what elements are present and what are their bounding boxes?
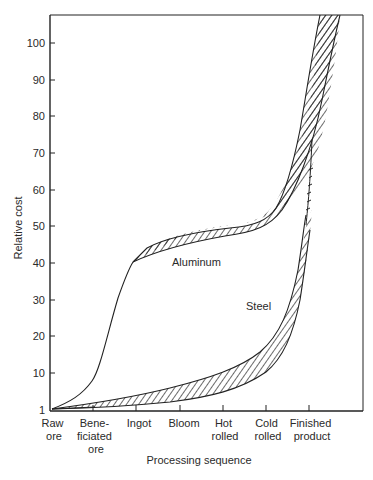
x-tick-bloom: Bloom: [168, 417, 199, 429]
aluminum-upper-edge: [133, 15, 320, 262]
y-tick-50: 50: [33, 220, 45, 232]
aluminum-lower-line: [52, 262, 133, 409]
x-tick-hot-rolled: Hot rolled: [212, 417, 239, 442]
x-tick-cold-rolled: Cold rolled: [255, 417, 282, 442]
relative-cost-chart: 100 90 80 70 60 50 40 30 20 10 1 Relativ…: [0, 0, 373, 480]
y-axis-tick-labels: 100 90 80 70 60 50 40 30 20 10 1: [27, 37, 45, 416]
x-tick-beneficiated-ore: Bene- ficiated ore: [77, 417, 115, 455]
x-tick-ingot: Ingot: [127, 417, 151, 429]
x-tick-finished-product: Finished product: [290, 417, 335, 442]
y-tick-1: 1: [39, 404, 45, 416]
y-tick-60: 60: [33, 184, 45, 196]
y-tick-70: 70: [33, 147, 45, 159]
steel-label: Steel: [246, 300, 271, 312]
x-axis-tick-labels: Raw ore Bene- ficiated ore Ingot Bloom H…: [41, 417, 334, 455]
y-tick-90: 90: [33, 74, 45, 86]
y-tick-30: 30: [33, 294, 45, 306]
y-axis-ticks: [50, 43, 55, 373]
y-tick-100: 100: [27, 37, 45, 49]
y-tick-10: 10: [33, 367, 45, 379]
y-tick-80: 80: [33, 110, 45, 122]
x-axis-title: Processing sequence: [146, 454, 251, 466]
y-axis-title: Relative cost: [12, 197, 24, 260]
x-tick-raw-ore: Raw ore: [41, 417, 66, 442]
y-tick-40: 40: [33, 257, 45, 269]
y-tick-20: 20: [33, 330, 45, 342]
aluminum-label: Aluminum: [172, 256, 221, 268]
